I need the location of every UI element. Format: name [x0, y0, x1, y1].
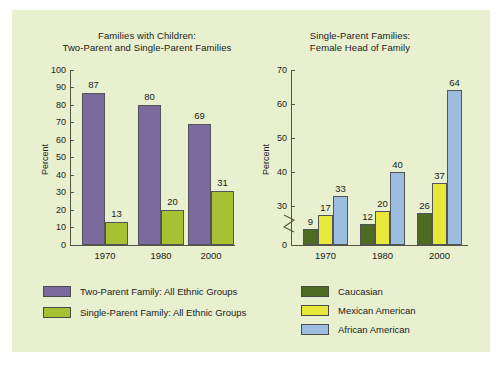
- axis-break-icon: [283, 213, 300, 235]
- bar-value-right-1980-mexican-american: 20: [375, 199, 390, 209]
- chart-right-ytick-40: 40: [261, 168, 287, 177]
- legend-label-african-american: African American: [338, 324, 410, 335]
- chart-right-ytick-30: 30: [261, 202, 287, 211]
- bar-right-1980-caucasian: [360, 224, 375, 245]
- bar-value-right-1970-caucasian: 9: [303, 217, 318, 227]
- bar-right-2000-african-american: [447, 90, 462, 245]
- bar-value-right-1970-mexican-american: 17: [318, 203, 333, 213]
- bar-right-1970-caucasian: [303, 229, 318, 245]
- bar-right-1970-mexican-american: [318, 215, 333, 245]
- legend-item-mexican-american: Mexican American: [301, 305, 416, 316]
- bar-value-right-1970-african-american: 33: [333, 184, 348, 194]
- chart-right-title-line2: Female Head of Family: [270, 42, 450, 54]
- bar-right-1980-african-american: [390, 172, 405, 245]
- bar-value-right-2000-caucasian: 26: [417, 201, 432, 211]
- legend-swatch-caucasian: [301, 286, 329, 297]
- bar-right-1980-mexican-american: [375, 211, 390, 245]
- bar-value-right-2000-mexican-american: 37: [432, 171, 447, 181]
- legend-label-caucasian: Caucasian: [338, 286, 383, 297]
- legend-label-mexican-american: Mexican American: [338, 305, 416, 316]
- bar-value-right-2000-african-american: 64: [447, 78, 462, 88]
- chart-right-ytick-0: 0: [261, 241, 287, 250]
- chart-right-xtick-1970: 1970: [303, 250, 348, 261]
- legend-item-caucasian: Caucasian: [301, 286, 383, 297]
- chart-right: Single-Parent Families: Female Head of F…: [12, 10, 490, 352]
- chart-right-ytick-60: 60: [261, 100, 287, 109]
- chart-right-xtick-1980: 1980: [360, 250, 405, 261]
- chart-right-x-axis: [291, 245, 468, 246]
- bar-value-right-1980-african-american: 40: [390, 160, 405, 170]
- legend-swatch-african-american: [301, 324, 329, 335]
- chart-right-xtick-2000: 2000: [417, 250, 462, 261]
- legend-swatch-mexican-american: [301, 305, 329, 316]
- chart-right-ytick-50: 50: [261, 134, 287, 143]
- chart-right-title-line1: Single-Parent Families:: [270, 30, 450, 42]
- bar-right-1970-african-american: [333, 196, 348, 245]
- bar-right-2000-caucasian: [417, 213, 432, 245]
- legend-item-african-american: African American: [301, 324, 410, 335]
- bar-right-2000-mexican-american: [432, 183, 447, 245]
- chart-right-title: Single-Parent Families: Female Head of F…: [270, 30, 450, 54]
- figure-panel: Families with Children: Two-Parent and S…: [12, 10, 490, 352]
- bar-value-right-1980-caucasian: 12: [360, 212, 375, 222]
- chart-right-ytick-70: 70: [261, 66, 287, 75]
